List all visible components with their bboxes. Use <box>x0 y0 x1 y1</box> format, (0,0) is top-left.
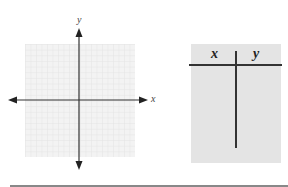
bottom-rule <box>10 185 288 187</box>
y-axis-up-arrow-icon <box>76 28 83 37</box>
table-header-y: y <box>253 46 259 62</box>
figure: y x x y <box>0 0 288 187</box>
x-axis-label: x <box>151 93 155 104</box>
y-axis-label: y <box>77 14 81 25</box>
table-column-divider <box>235 51 237 148</box>
coordinate-plane <box>0 0 160 187</box>
y-axis-down-arrow-icon <box>76 161 83 170</box>
x-axis-left-arrow-icon <box>8 97 17 104</box>
x-axis-right-arrow-icon <box>139 97 148 104</box>
table-header-x: x <box>211 46 218 62</box>
